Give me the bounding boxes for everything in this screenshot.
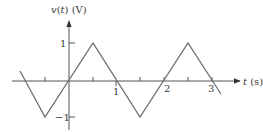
v-axis-label: v(t) (V): [51, 4, 87, 15]
t-axis-label: t (s): [243, 76, 263, 87]
triangle-wave: [20, 43, 221, 117]
x-tick-label-3: 3: [208, 83, 214, 94]
v-axis-ticks: [69, 43, 75, 117]
y-tick-label-1: 1: [60, 38, 66, 49]
x-tick-label-1: 1: [113, 86, 119, 97]
triangle-waveform-plot: v(t) (V) t (s) 1 −1 1 2 3: [0, 0, 263, 132]
y-tick-label-neg1: −1: [55, 112, 70, 123]
x-tick-label-2: 2: [164, 83, 170, 94]
